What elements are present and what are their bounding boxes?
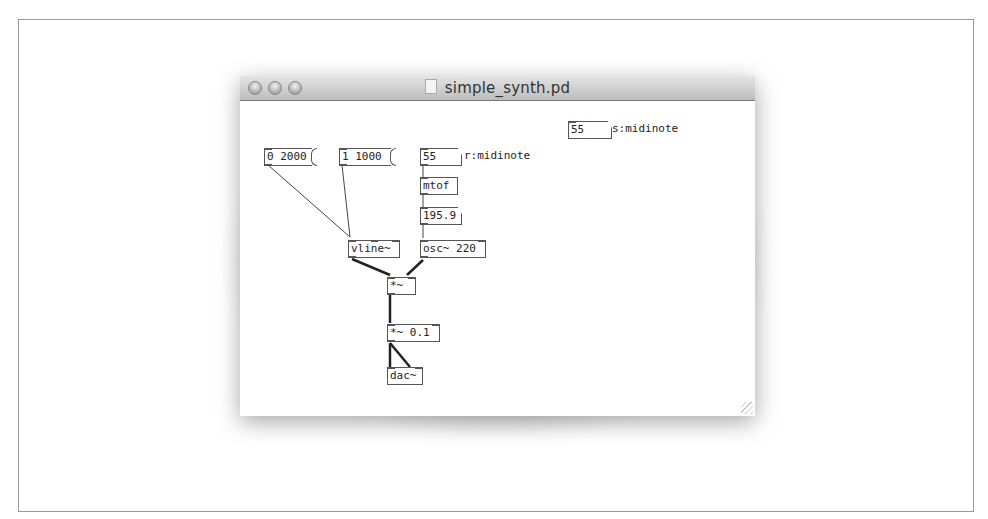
message-text: 1 1000 [342, 150, 382, 163]
frequency-number-box[interactable]: 195.9 [420, 207, 456, 225]
outlet [421, 193, 428, 195]
window-title-text: simple_synth.pd [445, 79, 570, 97]
inlet [432, 324, 439, 326]
multiply-object[interactable]: *~ [387, 277, 416, 295]
message-text: 0 2000 [267, 150, 307, 163]
message-box-1-1000[interactable]: 1 1000 [339, 148, 391, 166]
inlet [408, 277, 415, 279]
object-text: vline~ [351, 242, 391, 255]
object-text: osc~ 220 [423, 242, 476, 255]
inlet [478, 240, 485, 242]
window-title: simple_synth.pd [240, 79, 755, 97]
inlet [392, 240, 399, 242]
outlet [421, 256, 428, 258]
message-box-0-2000[interactable]: 0 2000 [264, 148, 312, 166]
pd-patch-window: simple_synth.pd 55 s:midinote 0 2000 [240, 76, 755, 416]
inlet [421, 148, 428, 150]
receive-number-box[interactable]: 55 [420, 148, 456, 166]
number-value: 195.9 [423, 209, 456, 222]
document-icon [425, 79, 437, 94]
inlet [388, 367, 395, 369]
inlet [265, 148, 272, 150]
gain-multiply-object[interactable]: *~ 0.1 [387, 324, 440, 342]
object-text: dac~ [390, 369, 417, 382]
osc-object[interactable]: osc~ 220 [420, 240, 486, 258]
mtof-object[interactable]: mtof [420, 177, 458, 195]
object-text: mtof [423, 179, 450, 192]
outlet [421, 223, 428, 225]
inlet [569, 121, 576, 123]
receive-label: r:midinote [464, 149, 530, 162]
inlet [421, 240, 428, 242]
dac-object[interactable]: dac~ [387, 367, 423, 385]
vline-object[interactable]: vline~ [348, 240, 400, 258]
outlet [340, 164, 347, 166]
inlet [421, 177, 428, 179]
outlet [421, 164, 428, 166]
outlet [265, 164, 272, 166]
inlet [415, 367, 422, 369]
object-text: *~ 0.1 [390, 326, 430, 339]
outlet [388, 293, 395, 295]
resize-grip[interactable] [741, 402, 753, 414]
send-label: s:midinote [612, 122, 678, 135]
number-value: 55 [423, 150, 436, 163]
title-bar[interactable]: simple_synth.pd [240, 76, 755, 101]
object-text: *~ [390, 279, 403, 292]
patch-canvas[interactable]: 55 s:midinote 0 2000 1 1000 55 r:midinot… [240, 101, 755, 416]
inlet [340, 148, 347, 150]
inlet [371, 240, 378, 242]
inlet [388, 324, 395, 326]
inlet [421, 207, 428, 209]
outlet [388, 340, 395, 342]
outlet [349, 256, 356, 258]
inlet [388, 277, 395, 279]
inlet [349, 240, 356, 242]
number-value: 55 [571, 123, 584, 136]
send-number-box[interactable]: 55 [568, 121, 606, 139]
